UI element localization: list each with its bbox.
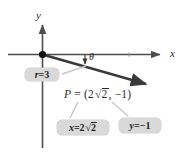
- callout-y-value: −1: [140, 121, 151, 131]
- point-p-equals: = (: [71, 88, 88, 100]
- y-axis-label: y: [36, 10, 41, 21]
- point-p-separator: , −1): [109, 88, 132, 100]
- callout-x-radical: √2: [85, 122, 98, 133]
- leader-line-x: [70, 102, 78, 118]
- x-axis-label: x: [170, 48, 175, 59]
- point-p-radical: √2: [94, 88, 108, 101]
- polar-coordinates-figure: y x θ P = (2√2, −1) r = 3 x = 2√2 y = −1: [0, 0, 188, 152]
- theta-angle-label: θ: [89, 52, 94, 62]
- point-p-label: P = (2√2, −1): [64, 88, 131, 101]
- point-p-radicand: 2: [102, 88, 109, 101]
- callout-x-radicand: 2: [91, 122, 97, 133]
- callout-r: r = 3: [25, 68, 59, 81]
- callout-y: y = −1: [119, 118, 161, 133]
- callout-r-value: 3: [44, 70, 49, 80]
- leader-line-y: [112, 102, 128, 116]
- callout-x: x = 2√2: [57, 120, 109, 135]
- origin-point: [39, 51, 46, 58]
- leader-line-r: [62, 66, 86, 74]
